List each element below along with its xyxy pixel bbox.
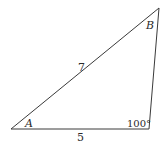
vertex-label-b: B <box>145 19 154 32</box>
vertex-label-a: A <box>24 117 33 130</box>
side-label-ac: 5 <box>77 131 84 144</box>
triangle-shape <box>11 8 159 129</box>
angle-label-c: 100° <box>127 118 151 129</box>
side-label-ab: 7 <box>78 61 85 74</box>
triangle-diagram: B A 7 5 100° <box>0 0 166 147</box>
